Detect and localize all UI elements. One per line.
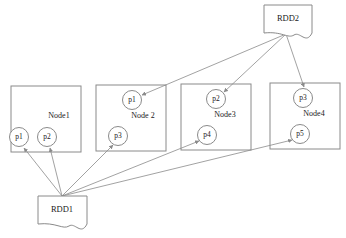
node1-p1-label: p1 xyxy=(15,132,23,141)
partition-node4-p5[interactable]: p5 xyxy=(291,125,310,144)
node2-label: Node 2 xyxy=(131,111,154,120)
node2-p3-label: p3 xyxy=(114,131,122,140)
rdd-partition-diagram: Node1 p1 p2 Node 2 p1 p3 xyxy=(0,0,346,238)
rdd2-label: RDD2 xyxy=(277,13,299,23)
partition-node2-p3[interactable]: p3 xyxy=(109,127,128,146)
node1-p2-label: p2 xyxy=(43,132,51,141)
node4-label: Node4 xyxy=(303,109,324,118)
partition-node3-p2[interactable]: p2 xyxy=(207,90,226,109)
partition-node1-p1[interactable]: p1 xyxy=(10,128,29,147)
edge-rdd1-to-node3-p4 xyxy=(62,141,199,196)
rdd1-label: RDD1 xyxy=(51,204,73,214)
partition-node3-p4[interactable]: p4 xyxy=(198,126,217,145)
node3-p2-label: p2 xyxy=(212,94,220,103)
node3-p4-label: p4 xyxy=(203,130,211,139)
node2-p1-label: p1 xyxy=(128,95,136,104)
partition-node4-p3[interactable]: p3 xyxy=(294,89,313,108)
node1-label: Node1 xyxy=(48,111,69,120)
partition-node1-p2[interactable]: p2 xyxy=(38,128,57,147)
node-box-node3[interactable]: Node3 p2 p4 xyxy=(181,84,251,150)
edge-rdd2-to-node4-p3 xyxy=(286,34,304,87)
edge-rdd2-to-node2-p1 xyxy=(142,34,286,95)
node-box-node1[interactable]: Node1 p1 p2 xyxy=(10,86,82,152)
partition-node2-p1[interactable]: p1 xyxy=(123,91,142,110)
node-box-node4[interactable]: Node4 p3 p5 xyxy=(270,83,340,149)
edge-rdd1-to-node2-p3 xyxy=(62,145,113,196)
diagram-canvas: Node1 p1 p2 Node 2 p1 p3 xyxy=(0,0,346,238)
node4-p5-label: p5 xyxy=(296,129,304,138)
node4-p3-label: p3 xyxy=(299,93,307,102)
rdd2-node[interactable]: RDD2 xyxy=(264,5,312,38)
node3-label: Node3 xyxy=(214,110,235,119)
rdd1-node[interactable]: RDD1 xyxy=(38,196,87,229)
node-box-node2[interactable]: Node 2 p1 p3 xyxy=(96,85,166,151)
